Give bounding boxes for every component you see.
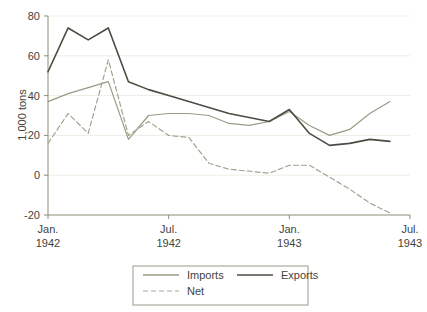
- y-axis-tick-label: 40: [28, 90, 40, 102]
- x-axis-tick-label-year: 1942: [36, 237, 60, 249]
- y-axis-tick-label: 80: [28, 10, 40, 22]
- legend-label-imports: Imports: [187, 269, 224, 281]
- x-axis-tick-label-year: 1943: [398, 237, 422, 249]
- y-axis-tick-label: 0: [34, 169, 40, 181]
- y-axis-tick-label: -20: [24, 209, 40, 221]
- chart-background: [0, 0, 427, 312]
- legend-label-exports: Exports: [281, 269, 319, 281]
- y-axis-tick-label: 60: [28, 50, 40, 62]
- chart-container: 806040200-20 Jan.1942Jul.1942Jan.1943Jul…: [0, 0, 427, 312]
- x-axis-tick-label-month: Jan.: [38, 223, 59, 235]
- legend-label-net: Net: [187, 285, 204, 297]
- x-axis-tick-label-year: 1942: [156, 237, 180, 249]
- y-axis-title: 1,000 tons: [16, 89, 28, 141]
- line-chart: 806040200-20 Jan.1942Jul.1942Jan.1943Jul…: [0, 0, 427, 312]
- x-axis-tick-label-month: Jul.: [401, 223, 418, 235]
- x-axis-tick-label-month: Jan.: [279, 223, 300, 235]
- x-axis-tick-label-year: 1943: [277, 237, 301, 249]
- x-axis-tick-label-month: Jul.: [160, 223, 177, 235]
- y-axis-tick-label: 20: [28, 129, 40, 141]
